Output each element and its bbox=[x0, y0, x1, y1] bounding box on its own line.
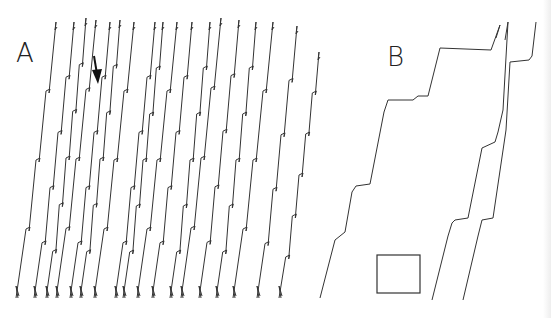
record-trace bbox=[216, 22, 257, 298]
rate-legend: R's/SEC 1 0.5 0.25 150 R's 5 MIN. bbox=[377, 255, 420, 293]
scan-edge bbox=[543, 0, 551, 318]
record-trace bbox=[279, 52, 320, 298]
record-trace bbox=[257, 26, 298, 298]
panel-label-a: A bbox=[16, 40, 34, 66]
panel-b-records bbox=[320, 22, 536, 300]
record-trace bbox=[115, 22, 156, 298]
cumulative-records: R's/SEC 1 0.5 0.25 150 R's 5 MIN. bbox=[0, 0, 551, 318]
record-trace bbox=[463, 22, 536, 300]
record-trace bbox=[432, 22, 508, 300]
record-trace bbox=[199, 20, 240, 298]
record-trace bbox=[181, 18, 222, 298]
figure: R's/SEC 1 0.5 0.25 150 R's 5 MIN. A B bbox=[0, 0, 551, 318]
down-arrow-icon bbox=[92, 56, 102, 84]
panel-a-records bbox=[16, 18, 320, 298]
panel-label-b: B bbox=[387, 44, 404, 70]
